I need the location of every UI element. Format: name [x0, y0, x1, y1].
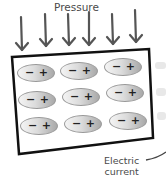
arrow-down-icon	[130, 10, 142, 42]
arrow-down-icon	[83, 12, 95, 45]
current-label-line1: Electric	[104, 155, 139, 166]
current-wire	[146, 152, 166, 160]
dipole: −+	[62, 88, 100, 106]
stripes	[155, 62, 166, 120]
arrow-down-icon	[40, 14, 52, 46]
dipole: −+	[60, 62, 98, 80]
dipole: −+	[64, 115, 102, 133]
electric-current-label: Electric current	[104, 155, 139, 176]
dipole: −+	[17, 64, 55, 82]
arrow-down-icon	[16, 17, 28, 50]
dipole: −+	[18, 91, 56, 109]
current-label-line2: current	[104, 166, 139, 176]
arrow-down-icon	[107, 14, 119, 44]
dipole: −+	[106, 84, 144, 102]
dipole: −+	[104, 58, 142, 76]
arrow-down-icon	[63, 14, 75, 45]
dipole: −+	[20, 117, 58, 135]
pressure-arrows	[16, 10, 142, 50]
dipole: −+	[109, 112, 147, 130]
